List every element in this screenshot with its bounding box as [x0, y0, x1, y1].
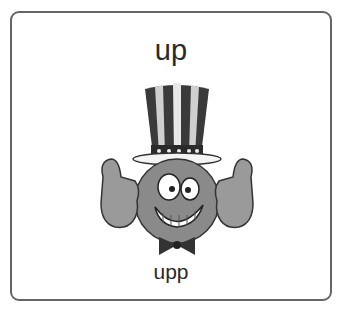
- card-title: up: [12, 34, 330, 67]
- uncle-sam-smiley-thumbs-up-icon: [97, 79, 257, 259]
- word-card[interactable]: up upp: [10, 11, 332, 301]
- card-caption: upp: [12, 260, 330, 284]
